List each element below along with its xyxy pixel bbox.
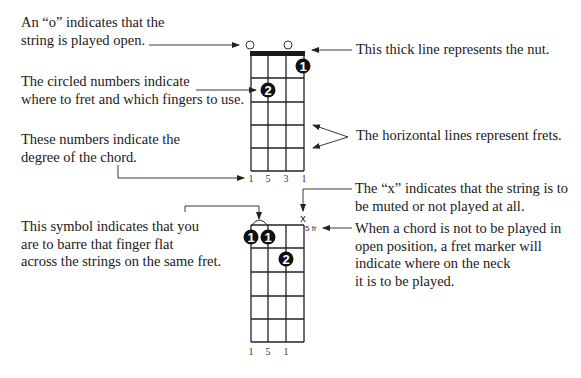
svg-text:2: 2 — [282, 252, 289, 267]
finger-dot-icon: 2 — [279, 252, 294, 267]
svg-text:5: 5 — [266, 346, 271, 357]
open-string-icon — [246, 41, 292, 49]
chord-top: 1 2 1 5 3 1 — [246, 41, 311, 184]
arrow-icon — [303, 189, 352, 211]
arrow-icon — [185, 206, 259, 219]
nut — [250, 51, 305, 56]
svg-text:1: 1 — [249, 346, 254, 357]
pointer-arrows — [118, 45, 352, 228]
finger-dot-icon: 1 — [244, 230, 259, 245]
arrow-icon — [118, 165, 244, 178]
svg-text:3: 3 — [284, 173, 289, 184]
svg-text:1: 1 — [247, 230, 254, 245]
finger-dot-icon: 2 — [261, 83, 276, 98]
svg-text:2: 2 — [264, 83, 271, 98]
finger-dot-icon: 1 — [261, 230, 276, 245]
fretboard-grid — [251, 55, 304, 171]
chord-bottom: x 5 fr 1 1 2 1 5 1 — [244, 212, 317, 357]
finger-dot-icon: 1 — [296, 59, 311, 74]
svg-text:1: 1 — [299, 59, 306, 74]
fretboard-grid — [251, 225, 304, 342]
muted-string-icon: x — [300, 212, 306, 224]
fret-marker-label: 5 fr — [305, 224, 317, 233]
svg-text:1: 1 — [249, 173, 254, 184]
svg-text:5: 5 — [266, 173, 271, 184]
arrow-icon — [313, 125, 348, 137]
svg-text:1: 1 — [264, 230, 271, 245]
svg-text:1: 1 — [302, 173, 307, 184]
svg-text:1: 1 — [284, 346, 289, 357]
degree-labels: 1 5 1 — [249, 346, 289, 357]
arrow-icon — [313, 137, 348, 148]
chord-diagrams: 1 2 1 5 3 1 x 5 fr — [0, 0, 581, 378]
degree-labels: 1 5 3 1 — [249, 173, 307, 184]
